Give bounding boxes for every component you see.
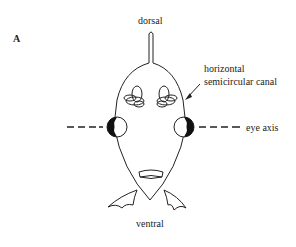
fish-head-drawing	[0, 0, 296, 247]
right-eye	[174, 117, 194, 137]
left-pectoral-fin	[108, 190, 137, 208]
left-canal	[124, 86, 144, 107]
right-canal	[157, 86, 177, 107]
right-pectoral-fin	[164, 190, 186, 210]
dorsal-fin	[149, 32, 153, 63]
mouth	[139, 170, 163, 179]
left-eye	[107, 117, 127, 137]
